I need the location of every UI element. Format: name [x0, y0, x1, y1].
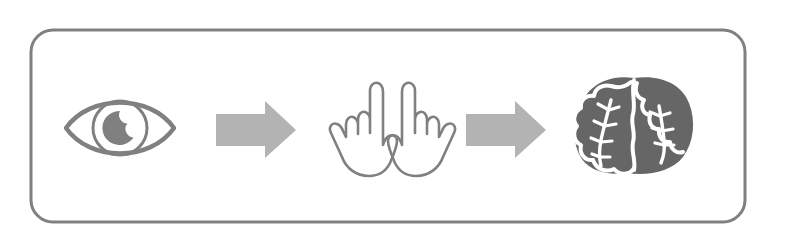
step-eye — [66, 101, 174, 155]
connector-arrow-2 — [466, 101, 546, 158]
step-brain — [574, 77, 693, 174]
eye-pupil-icon — [102, 111, 133, 145]
arrow-right-icon — [466, 101, 546, 158]
connector-arrow-1 — [216, 101, 296, 158]
hand-right-icon — [388, 83, 455, 176]
diagram-canvas: Look → Point → Think — [0, 0, 785, 245]
arrow-right-icon — [216, 101, 296, 158]
process-flow-diagram — [0, 0, 785, 245]
brain-central-fissure — [632, 80, 634, 170]
hand-left-icon — [330, 83, 397, 176]
step-pointing-hands — [330, 83, 455, 176]
